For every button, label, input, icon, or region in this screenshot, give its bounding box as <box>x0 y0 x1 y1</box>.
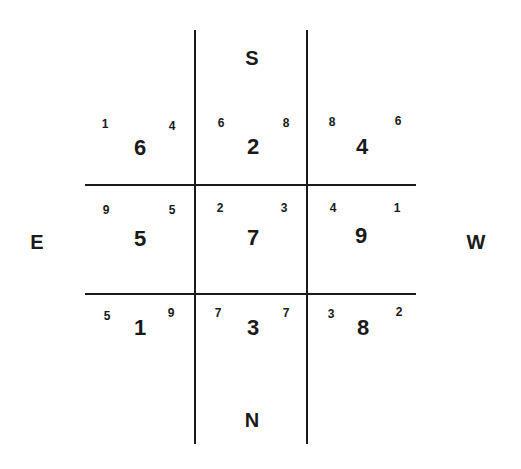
cell-main-number: 3 <box>247 317 259 339</box>
cell-right-number: 5 <box>169 204 176 216</box>
cell-main-number: 4 <box>356 136 368 158</box>
cell-right-number: 7 <box>283 307 290 319</box>
cell-left-number: 5 <box>104 310 111 322</box>
cell-left-number: 1 <box>102 118 109 130</box>
cell-left-number: 6 <box>218 117 225 129</box>
cell-right-number: 8 <box>283 117 290 129</box>
cell-main-number: 8 <box>357 317 369 339</box>
cell-right-number: 6 <box>395 115 402 127</box>
cell-main-number: 2 <box>247 136 259 158</box>
cell-left-number: 4 <box>330 202 337 214</box>
grid-line-vertical-right <box>306 30 308 444</box>
compass-label-west: W <box>467 232 486 252</box>
cell-main-number: 7 <box>247 227 259 249</box>
cell-right-number: 9 <box>168 307 175 319</box>
grid-line-horizontal-bottom <box>85 293 416 295</box>
cell-right-number: 2 <box>396 306 403 318</box>
cell-main-number: 9 <box>355 225 367 247</box>
cell-main-number: 5 <box>134 228 146 250</box>
compass-label-east: E <box>30 232 43 252</box>
cell-main-number: 6 <box>134 137 146 159</box>
cell-right-number: 3 <box>281 202 288 214</box>
cell-left-number: 7 <box>215 307 222 319</box>
cell-main-number: 1 <box>134 317 146 339</box>
cell-left-number: 9 <box>103 204 110 216</box>
cell-left-number: 2 <box>217 202 224 214</box>
grid-line-vertical-left <box>194 30 196 444</box>
compass-label-south: S <box>245 48 258 68</box>
grid-line-horizontal-top <box>85 184 416 186</box>
cell-right-number: 1 <box>394 202 401 214</box>
cell-left-number: 8 <box>329 116 336 128</box>
cell-left-number: 3 <box>328 308 335 320</box>
cell-right-number: 4 <box>169 120 176 132</box>
compass-label-north: N <box>245 410 259 430</box>
